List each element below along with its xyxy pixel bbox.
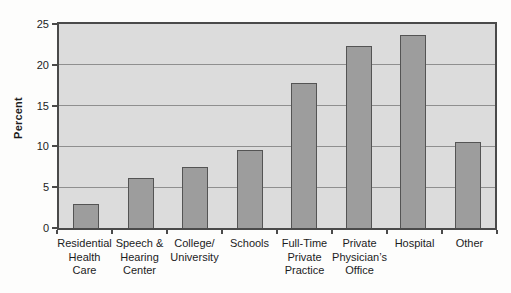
bar-chart-figure: Percent 0510152025 Residential Health Ca…	[0, 0, 511, 293]
gridline	[59, 105, 495, 106]
x-tick-mark	[331, 230, 333, 234]
x-axis-labels: Residential Health CareSpeech & Hearing …	[57, 237, 497, 278]
x-tick-mark	[276, 230, 278, 234]
x-tick-mark	[386, 230, 388, 234]
gridline	[59, 146, 495, 147]
y-tick-label: 20	[19, 59, 49, 71]
bar	[400, 35, 426, 228]
x-category-label: Residential Health Care	[57, 237, 112, 278]
y-tick-mark	[52, 105, 57, 107]
y-tick-mark	[52, 186, 57, 188]
bar	[182, 167, 208, 228]
x-category-label: College/ University	[167, 237, 222, 278]
gridline	[59, 187, 495, 188]
x-category-label: Full-Time Private Practice	[277, 237, 332, 278]
bar	[346, 46, 372, 228]
y-tick-mark	[52, 145, 57, 147]
x-category-label: Private Physician’s Office	[332, 237, 387, 278]
bar	[291, 83, 317, 228]
bar	[237, 150, 263, 228]
y-tick-label: 5	[19, 181, 49, 193]
y-tick-label: 15	[19, 100, 49, 112]
bar	[73, 204, 99, 228]
y-tick-label: 0	[19, 222, 49, 234]
x-tick-mark	[441, 230, 443, 234]
x-category-label: Other	[442, 237, 497, 278]
x-tick-mark	[496, 230, 498, 234]
y-tick-label: 10	[19, 140, 49, 152]
x-category-label: Hospital	[387, 237, 442, 278]
plot-area	[57, 22, 497, 230]
x-category-label: Schools	[222, 237, 277, 278]
x-category-label: Speech & Hearing Center	[112, 237, 167, 278]
y-tick-mark	[52, 23, 57, 25]
bar	[455, 142, 481, 228]
y-tick-mark	[52, 227, 57, 229]
x-tick-mark	[56, 230, 58, 234]
x-tick-mark	[221, 230, 223, 234]
gridline	[59, 64, 495, 65]
bar	[128, 178, 154, 228]
y-tick-mark	[52, 64, 57, 66]
y-tick-label: 25	[19, 18, 49, 30]
x-tick-mark	[111, 230, 113, 234]
x-tick-mark	[166, 230, 168, 234]
